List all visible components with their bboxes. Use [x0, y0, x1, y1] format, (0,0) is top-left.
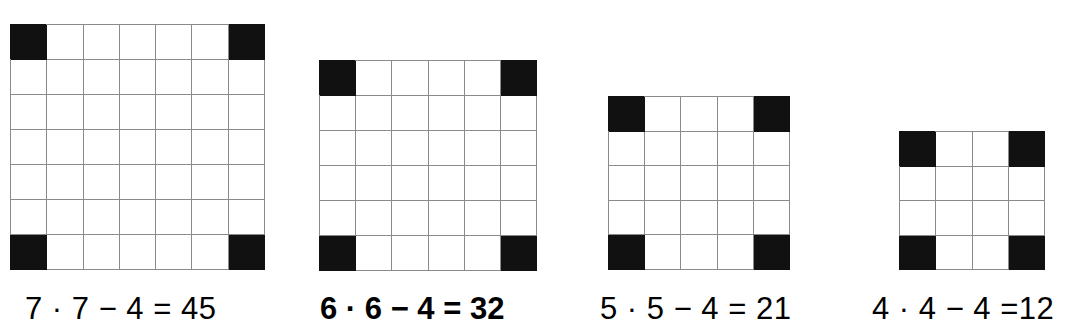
- grid-cell-empty: [973, 236, 1009, 271]
- grid-cell-empty: [754, 201, 790, 236]
- grid-cell-empty: [192, 95, 228, 130]
- grid-cell-empty: [645, 201, 681, 236]
- grid-cell-empty: [356, 201, 392, 236]
- grid-cell-empty: [1009, 167, 1045, 202]
- grid-cell-empty: [681, 201, 717, 236]
- grid-cell-filled: [229, 25, 265, 60]
- grid-cell-empty: [47, 60, 83, 95]
- grid-cell-empty: [429, 96, 465, 131]
- grid-cell-empty: [47, 200, 83, 235]
- grid-cell-empty: [156, 130, 192, 165]
- grid-cell-empty: [645, 97, 681, 132]
- grid-cell-empty: [11, 165, 47, 200]
- grid-cell-empty: [156, 165, 192, 200]
- grid-cell-empty: [936, 132, 972, 167]
- grid-cell-empty: [392, 201, 428, 236]
- grid-cell-empty: [156, 25, 192, 60]
- grid-cell-empty: [229, 200, 265, 235]
- grid-cell-empty: [84, 25, 120, 60]
- grid-cell-empty: [47, 95, 83, 130]
- grid-cell-empty: [11, 95, 47, 130]
- grid-cell-filled: [609, 97, 645, 132]
- grid-cell-filled: [900, 236, 936, 271]
- grid-cell-empty: [718, 132, 754, 167]
- grid-cell-empty: [11, 200, 47, 235]
- grid-cell-empty: [229, 60, 265, 95]
- grid-cell-empty: [754, 166, 790, 201]
- grid-cell-empty: [156, 95, 192, 130]
- grid-cell-empty: [356, 96, 392, 131]
- grid-cell-empty: [754, 132, 790, 167]
- grid-cell-filled: [11, 235, 47, 270]
- grid-cell-empty: [356, 61, 392, 96]
- grid-cell-empty: [392, 61, 428, 96]
- grid-cell-empty: [465, 166, 501, 201]
- grid-cell-filled: [501, 61, 537, 96]
- grid-cell-empty: [192, 165, 228, 200]
- grid-cell-empty: [120, 200, 156, 235]
- grid-cell-empty: [11, 130, 47, 165]
- grid-cell-empty: [84, 165, 120, 200]
- panel-caption-7: 7 · 7 − 4 = 45: [25, 292, 216, 326]
- grid-cell-empty: [681, 235, 717, 270]
- grid-cell-empty: [936, 167, 972, 202]
- grid-cell-empty: [392, 166, 428, 201]
- grid-cell-empty: [120, 25, 156, 60]
- grid-cell-empty: [465, 236, 501, 271]
- grid-cell-empty: [120, 60, 156, 95]
- grid-cell-empty: [429, 201, 465, 236]
- grid-cell-empty: [900, 167, 936, 202]
- grid-cell-filled: [900, 132, 936, 167]
- grid-cell-empty: [973, 132, 1009, 167]
- grid-cell-empty: [609, 132, 645, 167]
- grid-cell-empty: [718, 201, 754, 236]
- grid-cell-empty: [192, 130, 228, 165]
- grid-cell-empty: [465, 96, 501, 131]
- grid-cell-filled: [754, 235, 790, 270]
- grid-cell-empty: [192, 60, 228, 95]
- grid-cell-empty: [120, 130, 156, 165]
- grid-cell-empty: [681, 132, 717, 167]
- grid-cell-empty: [11, 60, 47, 95]
- grid-cell-empty: [84, 235, 120, 270]
- grid-cell-empty: [609, 166, 645, 201]
- grid-cell-empty: [229, 165, 265, 200]
- grid-cell-empty: [501, 166, 537, 201]
- grid-cell-empty: [718, 235, 754, 270]
- grid-cell-empty: [156, 60, 192, 95]
- square-grid-4: [899, 131, 1045, 270]
- grid-cell-empty: [229, 130, 265, 165]
- figure-canvas: 7 · 7 − 4 = 456 · 6 − 4 = 325 · 5 − 4 = …: [0, 0, 1085, 333]
- grid-cell-empty: [320, 166, 356, 201]
- grid-cell-empty: [501, 201, 537, 236]
- grid-cell-empty: [320, 131, 356, 166]
- grid-cell-empty: [320, 96, 356, 131]
- panel-caption-5: 5 · 5 − 4 = 21: [600, 292, 791, 326]
- grid-cell-filled: [1009, 236, 1045, 271]
- square-grid-5: [608, 96, 790, 270]
- grid-cell-filled: [754, 97, 790, 132]
- grid-cell-empty: [465, 201, 501, 236]
- grid-cell-empty: [356, 236, 392, 271]
- grid-cell-empty: [681, 97, 717, 132]
- grid-cell-empty: [501, 131, 537, 166]
- grid-cell-empty: [645, 166, 681, 201]
- grid-cell-empty: [973, 201, 1009, 236]
- grid-cell-empty: [192, 235, 228, 270]
- grid-cell-empty: [156, 200, 192, 235]
- square-grid-6: [319, 60, 537, 271]
- grid-cell-empty: [192, 200, 228, 235]
- grid-cell-empty: [229, 95, 265, 130]
- square-grid-7: [10, 24, 265, 270]
- grid-cell-filled: [11, 25, 47, 60]
- grid-cell-empty: [429, 61, 465, 96]
- grid-cell-empty: [120, 95, 156, 130]
- grid-cell-empty: [47, 235, 83, 270]
- grid-cell-empty: [392, 131, 428, 166]
- panel-caption-6: 6 · 6 − 4 = 32: [320, 292, 504, 326]
- grid-cell-filled: [320, 61, 356, 96]
- grid-cell-empty: [429, 131, 465, 166]
- grid-cell-empty: [47, 25, 83, 60]
- grid-cell-empty: [47, 130, 83, 165]
- grid-cell-empty: [681, 166, 717, 201]
